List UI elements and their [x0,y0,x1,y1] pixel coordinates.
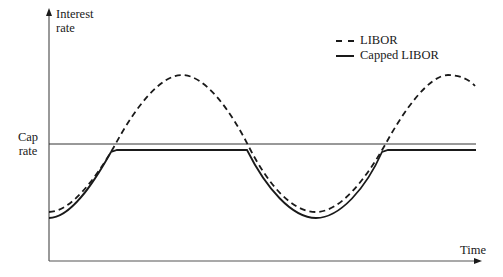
cap-rate-label: Cap rate [14,130,42,158]
x-axis-label: Time [460,243,486,257]
legend-label: Capped LIBOR [360,48,439,63]
y-axis-label-line1: Interest [56,7,93,21]
y-axis-label: Interest rate [56,7,93,35]
legend: LIBOR Capped LIBOR [336,33,439,63]
capped-libor-line [49,150,476,218]
legend-label: LIBOR [360,33,398,48]
cap-rate-label-line1: Cap [14,130,42,144]
solid-line-icon [336,55,354,57]
y-axis-label-line2: rate [56,21,93,35]
legend-item-capped-libor: Capped LIBOR [336,48,439,63]
cap-rate-label-line2: rate [14,144,42,158]
legend-item-libor: LIBOR [336,33,439,48]
dashed-line-icon [336,40,354,42]
